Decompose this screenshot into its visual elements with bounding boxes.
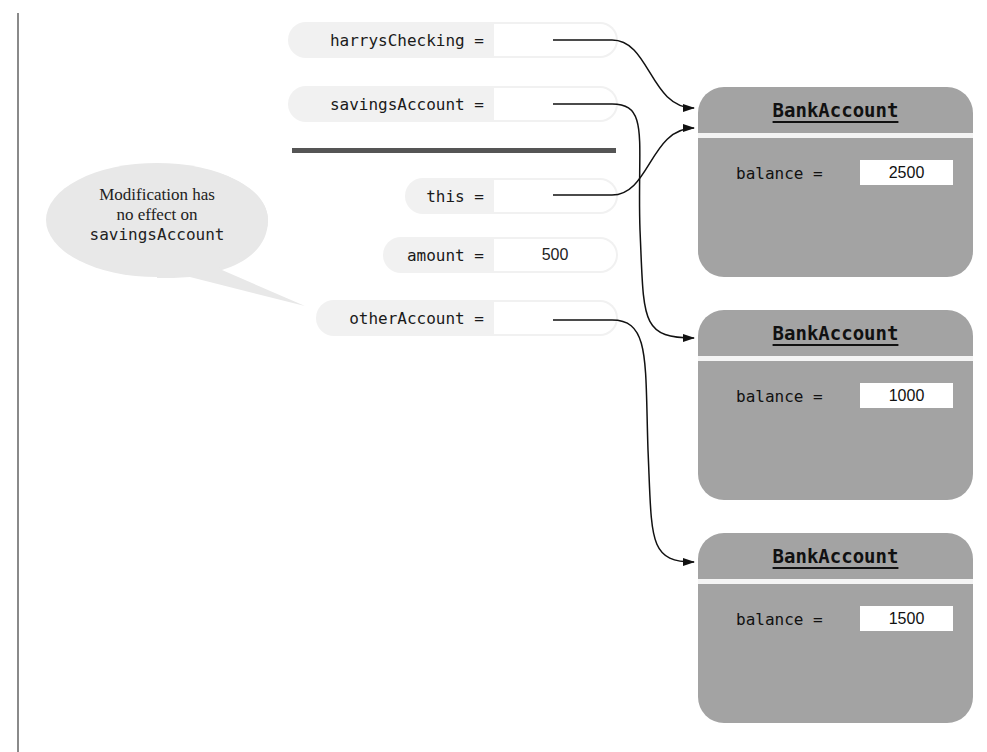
arrow-savingsAccount [553, 104, 694, 338]
arrow-this [553, 128, 694, 195]
reference-arrows [0, 0, 987, 752]
arrow-harrysChecking [553, 40, 694, 108]
arrow-otherAccount [553, 320, 694, 562]
